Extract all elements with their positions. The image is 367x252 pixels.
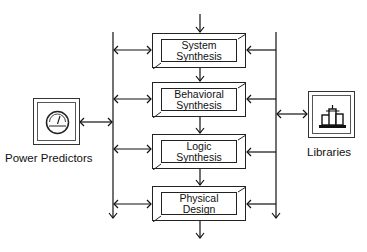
stage-label: Behavioral Synthesis (161, 88, 237, 111)
libraries-label: Libraries (307, 146, 351, 158)
icon-frame (37, 102, 76, 141)
gauge-icon (38, 103, 77, 142)
library-buildings-icon (313, 96, 352, 135)
stage-line1: Physical (179, 193, 218, 204)
stage-label: Physical Design (161, 192, 237, 215)
libraries-box (308, 91, 355, 138)
stage-label: System Synthesis (161, 39, 237, 62)
stage-line2: Design (183, 204, 216, 215)
stage-physical-design: Physical Design (152, 186, 246, 221)
stage-line1: System (181, 40, 216, 51)
stage-line1: Logic (186, 141, 211, 152)
icon-frame (312, 95, 351, 134)
power-predictors-box (33, 98, 80, 145)
stage-line2: Synthesis (176, 100, 222, 111)
stage-behavioral-synthesis: Behavioral Synthesis (152, 82, 246, 117)
stage-label: Logic Synthesis (161, 140, 237, 163)
stage-line1: Behavioral (174, 89, 224, 100)
stage-line2: Synthesis (176, 51, 222, 62)
stage-system-synthesis: System Synthesis (152, 33, 246, 68)
stage-line2: Synthesis (176, 152, 222, 163)
power-predictors-label: Power Predictors (5, 152, 93, 164)
stage-logic-synthesis: Logic Synthesis (152, 134, 246, 169)
